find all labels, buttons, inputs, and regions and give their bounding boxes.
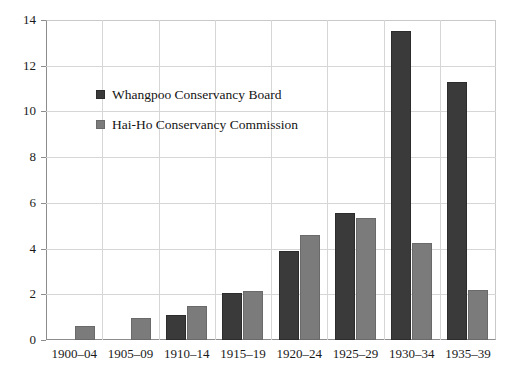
bar xyxy=(300,235,320,340)
bars-layer xyxy=(46,20,496,340)
bar xyxy=(187,306,207,340)
y-tick-label: 10 xyxy=(2,104,36,117)
bar xyxy=(131,318,151,340)
x-tick-label: 1915–19 xyxy=(215,347,271,361)
y-tick-mark xyxy=(41,340,46,341)
x-tick-label: 1910–14 xyxy=(159,347,215,361)
x-tick-label: 1930–34 xyxy=(384,347,440,361)
x-tick-label: 1905–09 xyxy=(102,347,158,361)
bar xyxy=(222,293,242,340)
legend-swatch-dark-icon xyxy=(96,90,105,99)
x-tick-label: 1920–24 xyxy=(271,347,327,361)
bar xyxy=(356,218,376,340)
bar xyxy=(279,251,299,340)
chart-legend: Whangpoo Conservancy Board Hai-Ho Conser… xyxy=(96,84,298,144)
legend-item-whangpoo: Whangpoo Conservancy Board xyxy=(96,84,298,104)
legend-label-haiho: Hai-Ho Conservancy Commission xyxy=(112,117,298,132)
y-tick-label: 8 xyxy=(2,150,36,163)
bar xyxy=(75,326,95,340)
bar xyxy=(335,213,355,340)
bar xyxy=(243,291,263,340)
y-tick-label: 6 xyxy=(2,196,36,209)
bar xyxy=(391,31,411,340)
legend-label-whangpoo: Whangpoo Conservancy Board xyxy=(112,87,281,102)
bar xyxy=(468,290,488,340)
bar xyxy=(166,315,186,340)
y-tick-label: 12 xyxy=(2,59,36,72)
bar-chart: 02468101214 1900–041905–091910–141915–19… xyxy=(0,0,513,373)
y-tick-label: 14 xyxy=(2,13,36,26)
bar xyxy=(412,243,432,340)
y-tick-label: 4 xyxy=(2,242,36,255)
legend-swatch-gray-icon xyxy=(96,120,105,129)
x-tick-label: 1935–39 xyxy=(440,347,496,361)
y-tick-label: 2 xyxy=(2,287,36,300)
legend-item-haiho: Hai-Ho Conservancy Commission xyxy=(96,114,298,134)
bar xyxy=(447,82,467,340)
y-tick-label: 0 xyxy=(2,333,36,346)
x-tick-label: 1925–29 xyxy=(327,347,383,361)
x-tick-label: 1900–04 xyxy=(46,347,102,361)
